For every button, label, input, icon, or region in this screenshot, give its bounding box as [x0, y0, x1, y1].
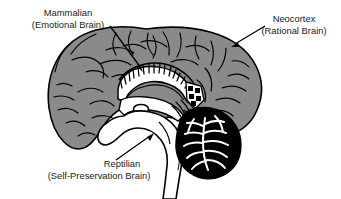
label-neocortex-line2: (Rational Brain)	[261, 25, 326, 36]
brainstem-outline	[98, 111, 183, 199]
label-reptilian-line2: (Self-Preservation Brain)	[48, 170, 151, 181]
label-mammalian-line2: (Emotional Brain)	[32, 19, 104, 30]
brain-illustration: Mammalian (Emotional Brain) Neocortex (R…	[0, 0, 341, 199]
label-neocortex: Neocortex (Rational Brain)	[231, 13, 327, 47]
label-mammalian-line1: Mammalian	[44, 7, 92, 18]
brainstem-region	[98, 111, 183, 199]
label-reptilian-line1: Reptilian	[104, 158, 140, 169]
label-neocortex-line1: Neocortex	[273, 13, 316, 24]
leader-arrow-reptilian	[116, 133, 154, 160]
leader-arrow-neocortex	[231, 26, 265, 47]
brain-diagram-figure: Mammalian (Emotional Brain) Neocortex (R…	[0, 0, 341, 199]
